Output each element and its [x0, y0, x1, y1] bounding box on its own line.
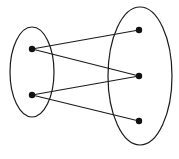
edge-L1-R1 — [32, 30, 139, 49]
node-R1 — [136, 27, 142, 33]
edge-L2-R3 — [32, 95, 139, 121]
mapping-diagram — [0, 0, 179, 159]
node-R2 — [136, 73, 142, 79]
node-L1 — [29, 46, 35, 52]
edge-L1-R2 — [32, 49, 139, 76]
node-L2 — [29, 92, 35, 98]
node-R3 — [136, 118, 142, 124]
edge-L2-R2 — [32, 76, 139, 95]
set-ellipse-domain — [10, 27, 54, 117]
